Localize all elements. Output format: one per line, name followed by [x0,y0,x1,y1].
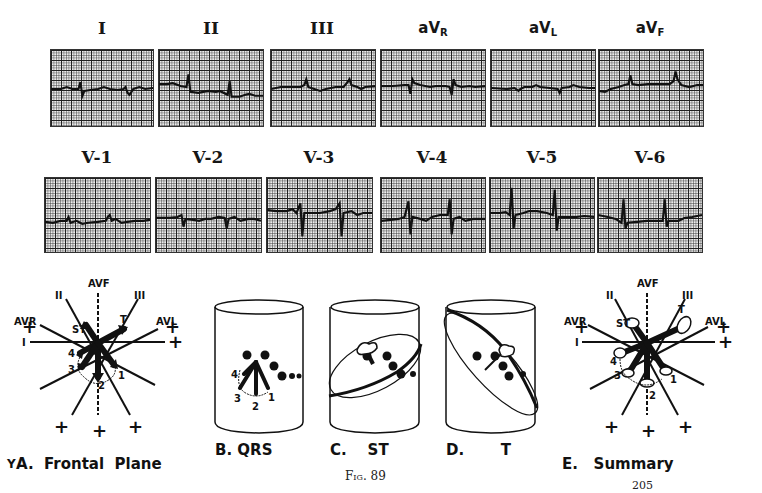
svg-text:+: + [574,316,589,337]
ecg-strip-avr [380,49,486,127]
ecg-trace [598,178,702,252]
ecg-strip-v2 [155,177,262,253]
caption-e: E. Summary [562,455,674,473]
axis-label-ii: II [55,290,62,301]
page-number: 205 [632,479,653,492]
vector-label-2: 2 [98,380,105,391]
ecg-trace [490,178,594,252]
vector-label-4: 4 [610,356,617,367]
lead-label-iii: III [269,18,375,38]
lead-label-v3: V-3 [266,147,372,167]
vector-label-2: 2 [252,401,259,412]
lead-label-v5: V-5 [489,147,595,167]
ecg-trace [159,50,263,126]
ecg-trace [381,50,485,126]
ecg-strip-iii [270,49,376,127]
vector-label-t: T [678,304,685,315]
vector-label-3: 3 [68,364,75,375]
svg-text:+: + [168,331,183,352]
ecg-trace [51,50,153,126]
ecg-strip-avl [490,49,596,127]
panel-e-summary: AVF II III AVR AVL I ST T 4 3 2 1 + + + … [550,265,755,440]
vector-label-st: ST [72,324,86,335]
vector-label-3: 3 [234,393,241,404]
lead-label-v1: V-1 [44,147,150,167]
ecg-strip-v1 [44,177,151,253]
vector-label-4: 4 [231,369,238,380]
t-cylinder-diagram [443,298,539,438]
ecg-trace [381,178,485,252]
caption-d: D. T [446,441,511,459]
axis-label-ii: II [606,290,613,301]
vector-label-3: 3 [614,370,621,381]
lead-label-v2: V-2 [155,147,261,167]
vector-label-1: 1 [268,392,275,403]
ecg-strip-v3 [266,177,373,253]
ecg-trace [45,178,150,252]
svg-text:+: + [128,416,143,437]
caption-c: C. ST [330,441,389,459]
panel-d-t [443,298,539,438]
vector-label-2: 2 [649,390,656,401]
lead-label-i: I [49,18,155,38]
svg-text:+: + [604,416,619,437]
caption-a: A. Frontal Plane [16,455,162,473]
summary-hexaxial-diagram: AVF II III AVR AVL I ST T 4 3 2 1 + + + … [550,265,755,440]
qrs-cylinder-diagram: 4 3 1 2 [212,298,307,438]
lead-label-ii: II [158,18,264,38]
lead-label-v6: V-6 [597,147,703,167]
svg-text:+: + [22,316,37,337]
lead-label-avl: aVL [490,19,596,38]
axis-label-avf: AVF [88,278,110,289]
lead-label-avr: aVR [380,19,486,38]
svg-text:+: + [678,416,693,437]
ecg-trace [599,50,703,126]
ecg-strip-i [50,49,154,127]
axis-label-i: I [575,337,579,348]
svg-text:+: + [641,420,656,440]
ecg-strip-ii [158,49,264,127]
ecg-trace [271,50,375,126]
axis-label-avf: AVF [637,278,659,289]
lead-label-avf: aVF [597,19,703,38]
ecg-trace [267,178,372,252]
vector-label-st: ST [616,318,630,329]
ecg-strip-v4 [380,177,486,253]
ecg-strip-v6 [597,177,703,253]
ecg-strip-v5 [489,177,595,253]
figure-number: Fig. 89 [345,469,386,483]
side-marker: Y [7,457,16,471]
panel-c-st [327,298,423,438]
panel-a-frontal-plane: AVF II III AVR AVL I ST T 4 3 2 1 + + + … [0,265,205,440]
vector-label-t: T [120,314,127,325]
panel-b-qrs: 4 3 1 2 [212,298,307,438]
ecg-trace [156,178,261,252]
caption-b: B. QRS [215,441,272,459]
axis-label-i: I [22,337,26,348]
hexaxial-diagram: AVF II III AVR AVL I ST T 4 3 2 1 + + + … [0,265,205,440]
svg-text:+: + [718,331,733,352]
lead-label-v4: V-4 [379,147,485,167]
axis-label-iii: III [682,290,693,301]
st-cylinder-diagram [327,298,423,438]
vector-label-1: 1 [670,374,677,385]
axis-label-iii: III [134,290,145,301]
svg-text:+: + [54,416,69,437]
vector-label-1: 1 [118,370,125,381]
svg-text:+: + [92,420,107,440]
ecg-strip-avf [598,49,704,127]
vector-label-4: 4 [68,348,75,359]
ecg-trace [491,50,595,126]
